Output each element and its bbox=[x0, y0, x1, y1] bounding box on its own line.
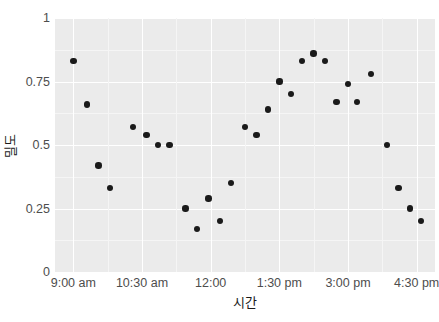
x-axis-tick-label: 9:00 am bbox=[51, 277, 96, 290]
gridline-major-vertical bbox=[279, 18, 280, 272]
gridline-major-horizontal bbox=[55, 272, 435, 273]
gridline-major-vertical bbox=[348, 18, 349, 272]
gridline-major-vertical bbox=[417, 18, 418, 272]
y-axis-title-text: 밀도 bbox=[4, 133, 17, 157]
x-axis-tick-labels: 9:00 am10:30 am12:001:30 pm3:00 pm4:30 p… bbox=[55, 277, 435, 293]
scatter-chart-figure: 00.250.50.751 9:00 am10:30 am12:001:30 p… bbox=[0, 0, 439, 322]
data-point bbox=[345, 81, 351, 87]
y-axis-title: 밀도 bbox=[2, 18, 18, 272]
data-point bbox=[333, 99, 339, 105]
data-point bbox=[276, 78, 282, 84]
data-point bbox=[288, 91, 294, 97]
x-axis-tick-label: 3:00 pm bbox=[325, 277, 370, 290]
data-point bbox=[107, 185, 113, 191]
gridline-major-vertical bbox=[142, 18, 143, 272]
gridline-major-vertical bbox=[73, 18, 74, 272]
data-point bbox=[143, 132, 149, 138]
x-axis-tick-label: 10:30 am bbox=[116, 277, 168, 290]
data-point bbox=[70, 58, 76, 64]
data-point bbox=[205, 195, 211, 201]
data-point bbox=[407, 205, 413, 211]
data-point bbox=[182, 205, 188, 211]
data-point bbox=[217, 218, 223, 224]
data-point bbox=[166, 142, 172, 148]
data-point bbox=[265, 106, 271, 112]
gridline-minor-vertical bbox=[382, 18, 383, 272]
gridline-minor-vertical bbox=[245, 18, 246, 272]
data-point bbox=[384, 142, 390, 148]
gridline-major-vertical bbox=[211, 18, 212, 272]
x-axis-title: 시간 bbox=[55, 296, 435, 309]
data-point bbox=[395, 185, 401, 191]
data-point bbox=[310, 50, 316, 56]
x-axis-tick-label: 12:00 bbox=[195, 277, 226, 290]
gridline-minor-vertical bbox=[108, 18, 109, 272]
data-point bbox=[418, 218, 424, 224]
gridline-minor-vertical bbox=[176, 18, 177, 272]
data-point bbox=[354, 99, 360, 105]
data-point bbox=[95, 162, 101, 168]
data-point bbox=[194, 226, 200, 232]
data-point bbox=[322, 58, 328, 64]
x-axis-tick-label: 1:30 pm bbox=[257, 277, 302, 290]
data-point bbox=[242, 124, 248, 130]
data-point bbox=[368, 71, 374, 77]
data-point bbox=[84, 101, 90, 107]
data-point bbox=[155, 142, 161, 148]
data-point bbox=[130, 124, 136, 130]
data-point bbox=[228, 180, 234, 186]
x-axis-tick-label: 4:30 pm bbox=[394, 277, 439, 290]
data-point bbox=[299, 58, 305, 64]
data-point bbox=[253, 132, 259, 138]
plot-panel bbox=[55, 18, 435, 272]
